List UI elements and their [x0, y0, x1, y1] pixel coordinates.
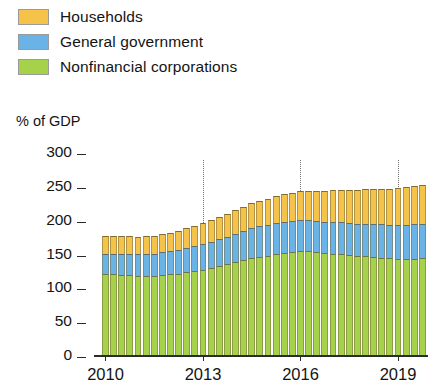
bar-segment-nonfinancial-corporations — [167, 274, 174, 355]
bar-segment-nonfinancial-corporations — [289, 252, 296, 355]
stacked-bar — [419, 0, 426, 355]
chart-plot-area: 300250200150100500 2010201320162019 — [0, 0, 436, 388]
bar-segment-households — [248, 203, 255, 228]
bar-segment-general-government — [362, 224, 369, 256]
bar-segment-nonfinancial-corporations — [313, 252, 320, 355]
stacked-bar — [273, 0, 280, 355]
stacked-bar — [256, 0, 263, 355]
bar-segment-households — [273, 196, 280, 223]
bar-segment-nonfinancial-corporations — [362, 256, 369, 355]
bar-segment-households — [330, 190, 337, 222]
bar-segment-households — [208, 220, 215, 242]
bar-segment-households — [289, 193, 296, 221]
bar-segment-households — [370, 189, 377, 224]
x-axis-label-2019: 2019 — [380, 365, 417, 384]
stacked-bar — [102, 0, 109, 355]
stacked-bar — [110, 0, 117, 355]
stacked-bar — [208, 0, 215, 355]
bar-segment-households — [143, 236, 150, 254]
bar-segment-households — [224, 214, 231, 237]
bar-segment-households — [411, 186, 418, 225]
bar-segment-general-government — [338, 222, 345, 254]
bar-segment-nonfinancial-corporations — [216, 266, 223, 355]
bar-segment-nonfinancial-corporations — [305, 251, 312, 355]
stacked-bar — [330, 0, 337, 355]
bar-segment-households — [151, 236, 158, 254]
bar-segment-general-government — [191, 246, 198, 271]
bar-segment-general-government — [167, 251, 174, 274]
bar-segment-nonfinancial-corporations — [135, 276, 142, 355]
stacked-bar — [135, 0, 142, 355]
bar-segment-general-government — [118, 254, 125, 276]
stacked-bar — [143, 0, 150, 355]
bar-segment-households — [232, 210, 239, 234]
bar-segment-general-government — [330, 222, 337, 254]
bar-segment-households — [386, 189, 393, 226]
x-axis-label-2010: 2010 — [87, 365, 124, 384]
bar-segment-general-government — [370, 224, 377, 256]
stacked-bar — [362, 0, 369, 355]
bar-segment-households — [362, 189, 369, 224]
stacked-bar — [159, 0, 166, 355]
stacked-bar — [167, 0, 174, 355]
bar-segment-nonfinancial-corporations — [354, 256, 361, 355]
x-axis-tick-mark-2013 — [203, 356, 204, 361]
bar-segment-nonfinancial-corporations — [175, 274, 182, 355]
stacked-bar — [216, 0, 223, 355]
stacked-bar — [378, 0, 385, 355]
bar-segment-households — [216, 217, 223, 239]
x-axis-label-2016: 2016 — [282, 365, 319, 384]
bar-segment-general-government — [183, 248, 190, 272]
bar-segment-nonfinancial-corporations — [151, 276, 158, 355]
stacked-bar — [265, 0, 272, 355]
bar-segment-households — [167, 233, 174, 251]
bar-segment-nonfinancial-corporations — [183, 272, 190, 355]
bar-segment-nonfinancial-corporations — [321, 253, 328, 355]
bar-segment-nonfinancial-corporations — [419, 258, 426, 355]
bar-segment-nonfinancial-corporations — [265, 256, 272, 355]
stacked-bar — [297, 0, 304, 355]
stacked-bar — [395, 0, 402, 355]
bar-segment-nonfinancial-corporations — [200, 270, 207, 355]
stacked-bar — [338, 0, 345, 355]
bar-segment-households — [102, 236, 109, 254]
bar-segment-households — [240, 207, 247, 231]
bar-segment-general-government — [256, 226, 263, 256]
bar-segment-nonfinancial-corporations — [338, 254, 345, 355]
bar-segment-households — [265, 199, 272, 225]
bar-segment-households — [191, 226, 198, 246]
bar-segment-households — [110, 236, 117, 254]
bar-segment-general-government — [135, 254, 142, 276]
stacked-bar — [175, 0, 182, 355]
bar-segment-households — [159, 234, 166, 252]
bar-segment-nonfinancial-corporations — [281, 253, 288, 355]
stacked-bar — [305, 0, 312, 355]
bar-segment-general-government — [346, 223, 353, 255]
bar-segment-nonfinancial-corporations — [208, 268, 215, 355]
bar-segment-general-government — [265, 225, 272, 255]
stacked-bar — [232, 0, 239, 355]
bar-segment-households — [200, 223, 207, 244]
bar-segment-households — [346, 190, 353, 223]
bar-segment-households — [297, 191, 304, 220]
bar-segment-general-government — [151, 254, 158, 276]
bar-segment-nonfinancial-corporations — [159, 275, 166, 355]
bar-segment-households — [183, 228, 190, 248]
bar-segment-nonfinancial-corporations — [102, 274, 109, 355]
stacked-bar — [403, 0, 410, 355]
bar-segment-general-government — [386, 225, 393, 258]
bar-segment-nonfinancial-corporations — [403, 259, 410, 355]
bar-segment-general-government — [240, 231, 247, 260]
stacked-bar — [289, 0, 296, 355]
bar-segment-nonfinancial-corporations — [370, 257, 377, 355]
bar-segment-general-government — [305, 220, 312, 251]
stacked-bar — [386, 0, 393, 355]
bar-segment-nonfinancial-corporations — [297, 251, 304, 355]
bar-segment-general-government — [216, 239, 223, 266]
bar-segment-general-government — [289, 221, 296, 252]
stacked-bar — [118, 0, 125, 355]
bar-segment-nonfinancial-corporations — [256, 257, 263, 355]
stacked-bar — [240, 0, 247, 355]
bar-segment-general-government — [411, 224, 418, 259]
bar-segment-general-government — [281, 222, 288, 253]
